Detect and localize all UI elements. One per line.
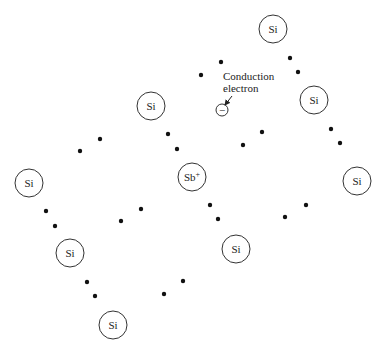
atom-sb-center: Sb+ (178, 163, 206, 191)
atom-label: Si (146, 100, 155, 112)
bond-electron-dot (119, 219, 123, 223)
bond-electron-dot (44, 209, 48, 213)
bond-electron-dot (181, 279, 185, 283)
crystal-lattice-diagram: SiSiSiSiSb+SiSiSiSi − Conduction electro… (0, 0, 384, 354)
bond-electron-dot (329, 127, 333, 131)
atom-si-center-top: Si (137, 92, 165, 120)
bond-electron-dot (304, 203, 308, 207)
annotation-line-2: electron (223, 82, 259, 94)
bond-electron-dot (283, 215, 287, 219)
bond-electron-dot (338, 141, 342, 145)
bond-electron-dot (139, 207, 143, 211)
arrow-icon (225, 96, 232, 105)
atom-si-right-mid: Si (300, 86, 328, 114)
bond-electron-dot (199, 73, 203, 77)
bond-electron-dot (93, 294, 97, 298)
atom-label: Si (231, 243, 240, 255)
bond-electron-dot (208, 203, 212, 207)
conduction-electron-annotation: Conduction electron (223, 70, 275, 105)
atom-label: Si (65, 247, 74, 259)
bond-electron-dot (175, 147, 179, 151)
atom-label: Si (24, 177, 33, 189)
atom-label: Si (352, 175, 361, 187)
annotation-line-1: Conduction (223, 70, 275, 82)
charge-superscript: + (196, 170, 201, 179)
bond-electron-dot (260, 130, 264, 134)
atom-si-top-right: Si (259, 15, 287, 43)
bond-electron-dot (98, 137, 102, 141)
atom-si-left: Si (15, 169, 43, 197)
bond-electron-dot (162, 292, 166, 296)
atom-si-bottom: Si (99, 311, 127, 339)
atom-si-left-lower: Si (56, 239, 84, 267)
bond-electron-dot (288, 56, 292, 60)
bond-electron-dot (219, 60, 223, 64)
bond-electron-dot (296, 70, 300, 74)
bond-electron-dot (85, 280, 89, 284)
atom-label: Si (108, 319, 117, 331)
bond-electron-dot (78, 149, 82, 153)
atoms: SiSiSiSiSb+SiSiSiSi (15, 15, 371, 339)
bond-electron-dot (216, 217, 220, 221)
atom-si-far-right: Si (343, 167, 371, 195)
conduction-electron: − (216, 104, 228, 116)
bond-electron-dot (53, 224, 57, 228)
atom-label: Si (309, 94, 318, 106)
atom-label: Si (268, 23, 277, 35)
bond-electron-dot (241, 143, 245, 147)
electron-minus-sign: − (219, 104, 225, 116)
atom-si-right-lower: Si (222, 235, 250, 263)
bond-electron-dot (166, 132, 170, 136)
